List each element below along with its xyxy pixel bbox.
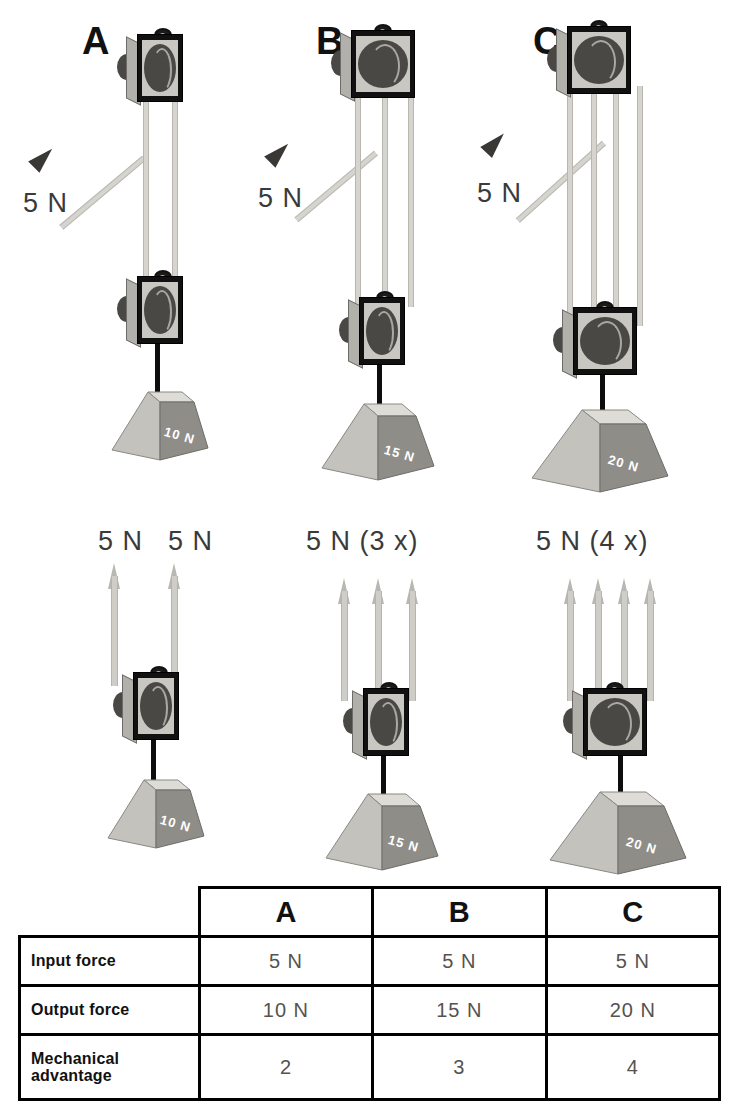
cell-mechanical-advantage-c: 4 — [546, 1035, 719, 1100]
pulley-wheel — [358, 40, 408, 88]
block-inner — [142, 282, 178, 338]
pulley-wheel — [144, 286, 176, 334]
block-inner — [356, 36, 410, 92]
cell-input-force-a: 5 N — [199, 937, 372, 986]
block-front-face — [359, 297, 405, 365]
block-front-face — [583, 688, 647, 756]
row-label-input-force: Input force — [20, 937, 200, 986]
support-force-label-b: 5 N (3 x) — [306, 528, 419, 555]
input-force-label-a: 5 N — [23, 190, 68, 217]
rope-segment — [613, 86, 619, 326]
table-corner-cell — [20, 888, 200, 937]
row-label-mechanical-advantage: Mechanical advantage — [20, 1035, 200, 1100]
table-column-header-c: C — [546, 888, 719, 937]
rope-segment — [172, 96, 178, 286]
block-inner — [138, 678, 174, 734]
rope-segment — [382, 92, 388, 307]
input-force-label-b: 5 N — [258, 185, 303, 212]
wheel-highlight — [152, 48, 173, 92]
support-force-label-a2: 5 N — [168, 528, 213, 555]
table-column-header-a: A — [199, 888, 372, 937]
weight-block-c-forces: 20 N — [546, 788, 698, 886]
cell-mechanical-advantage-b: 3 — [373, 1035, 546, 1100]
weight-block-b-forces: 15 N — [322, 790, 450, 884]
rope-segment — [143, 96, 149, 286]
pulley-wheel — [370, 698, 402, 746]
table-row: Output force 10 N 15 N 20 N — [20, 986, 720, 1035]
cell-input-force-c: 5 N — [546, 937, 719, 986]
wheel-highlight — [374, 311, 395, 355]
row-label-output-force: Output force — [20, 986, 200, 1035]
support-force-label-c: 5 N (4 x) — [536, 528, 649, 555]
block-front-face — [133, 672, 179, 740]
block-inner — [368, 694, 404, 750]
load-rod — [155, 344, 160, 394]
block-inner — [578, 313, 632, 369]
table-column-header-b: B — [373, 888, 546, 937]
block-front-face — [137, 34, 183, 102]
block-inner — [142, 40, 178, 96]
rope-segment — [591, 86, 597, 326]
rope-segment — [355, 92, 361, 307]
pulley-wheel — [574, 36, 624, 84]
input-force-label-c: 5 N — [477, 180, 522, 207]
pulley-wheel — [144, 44, 176, 92]
weight-block-a-forces: 10 N — [104, 776, 212, 862]
wheel-highlight — [152, 290, 173, 334]
pulley-wheel — [590, 698, 640, 746]
pulley-wheel — [366, 307, 398, 355]
system-letter-a: A — [82, 22, 109, 60]
cell-output-force-c: 20 N — [546, 986, 719, 1035]
weight-block-c: 20 N — [528, 406, 680, 504]
table-row: Input force 5 N 5 N 5 N — [20, 937, 720, 986]
rope-segment — [567, 86, 573, 326]
block-front-face — [137, 276, 183, 344]
wheel-highlight — [370, 44, 400, 88]
block-front-face — [351, 30, 415, 98]
wheel-highlight — [602, 702, 632, 746]
block-front-face — [363, 688, 409, 756]
summary-table: A B C Input force 5 N 5 N 5 N Output for… — [18, 886, 721, 1101]
support-force-label-a1: 5 N — [98, 528, 143, 555]
pulley-wheel — [140, 682, 172, 730]
rope-segment — [408, 92, 414, 307]
rope-segment — [637, 86, 643, 326]
block-inner — [572, 32, 626, 88]
table-header-row: A B C — [20, 888, 720, 937]
cell-output-force-b: 15 N — [373, 986, 546, 1035]
wheel-highlight — [586, 40, 616, 84]
pulley-wheel — [580, 317, 630, 365]
cell-mechanical-advantage-a: 2 — [199, 1035, 372, 1100]
pulley-diagram-canvas: A 5 N — [0, 0, 739, 1107]
wheel-highlight — [148, 686, 169, 730]
wheel-highlight — [592, 321, 622, 365]
weight-block-a: 10 N — [108, 388, 216, 474]
cell-output-force-a: 10 N — [199, 986, 372, 1035]
wheel-highlight — [378, 702, 399, 746]
block-front-face — [573, 307, 637, 375]
block-front-face — [567, 26, 631, 94]
block-inner — [364, 303, 400, 359]
table-row: Mechanical advantage 2 3 4 — [20, 1035, 720, 1100]
weight-block-b: 15 N — [318, 400, 446, 494]
cell-input-force-b: 5 N — [373, 937, 546, 986]
block-inner — [588, 694, 642, 750]
